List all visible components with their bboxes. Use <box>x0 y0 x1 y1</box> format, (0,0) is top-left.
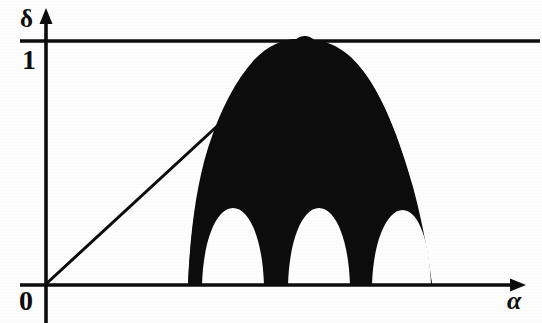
stability-chart-svg <box>0 0 542 323</box>
alpha-axis-symbol: α <box>507 288 521 314</box>
origin-tick-label-zero: 0 <box>19 287 33 315</box>
delta-axis-symbol: δ <box>20 6 33 31</box>
figure-canvas: δ 1 0 α <box>0 0 542 323</box>
instability-region-group <box>188 36 432 285</box>
y-tick-label-one: 1 <box>22 46 36 74</box>
delta-axis-arrow-icon <box>40 8 53 24</box>
